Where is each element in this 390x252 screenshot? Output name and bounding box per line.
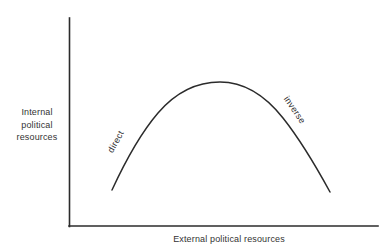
- y-axis-label-line-1: Internal: [6, 106, 68, 119]
- x-axis-label: External political resources: [129, 233, 329, 246]
- y-axis-label-line-3: resources: [6, 131, 68, 144]
- inverted-u-curve: [112, 82, 330, 192]
- y-axis-label: Internal political resources: [6, 106, 68, 144]
- figure-container: Internal political resources External po…: [0, 0, 390, 252]
- y-axis-label-line-2: political: [6, 119, 68, 132]
